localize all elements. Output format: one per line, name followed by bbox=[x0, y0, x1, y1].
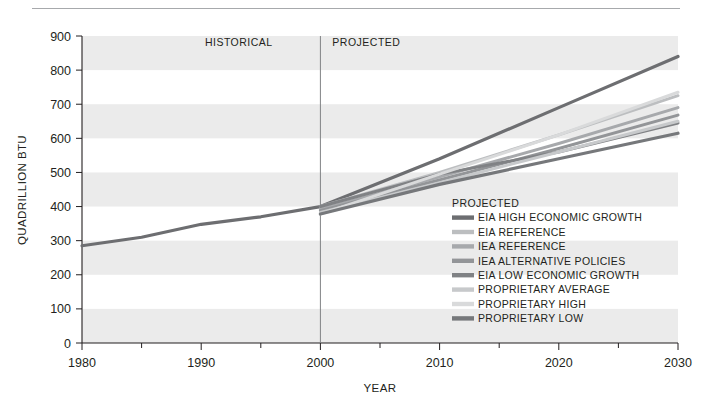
y-tick-label: 600 bbox=[50, 132, 71, 146]
chart-legend: PROJECTEDEIA HIGH ECONOMIC GROWTHEIA REF… bbox=[452, 197, 642, 324]
y-tick-label: 700 bbox=[50, 98, 71, 112]
band bbox=[82, 309, 678, 343]
x-tick-label: 2010 bbox=[426, 356, 454, 370]
chart-figure: 0100200300400500600700800900 19801990200… bbox=[0, 0, 702, 414]
y-axis-title: QUADRILLION BTU bbox=[16, 135, 28, 245]
legend-item[interactable]: PROPRIETARY AVERAGE bbox=[452, 283, 610, 295]
legend-item[interactable]: IEA ALTERNATIVE POLICIES bbox=[452, 255, 625, 267]
y-tick-label: 0 bbox=[64, 337, 71, 351]
legend-item[interactable]: EIA HIGH ECONOMIC GROWTH bbox=[452, 211, 642, 223]
y-tick-label: 300 bbox=[50, 234, 71, 248]
legend-item[interactable]: EIA LOW ECONOMIC GROWTH bbox=[452, 269, 640, 281]
x-tick-label: 1990 bbox=[187, 356, 215, 370]
y-tick-label: 200 bbox=[50, 268, 71, 282]
y-axis-ticks: 0100200300400500600700800900 bbox=[50, 30, 82, 351]
series-line bbox=[82, 207, 320, 246]
legend-label: IEA REFERENCE bbox=[478, 240, 566, 252]
legend-swatch bbox=[452, 273, 474, 277]
x-axis-ticks: 198019902000201020202030 bbox=[68, 343, 692, 370]
legend-label: PROPRIETARY LOW bbox=[478, 312, 583, 324]
legend-label: PROPRIETARY HIGH bbox=[478, 298, 586, 310]
legend-label: PROPRIETARY AVERAGE bbox=[478, 283, 610, 295]
legend-item[interactable]: EIA REFERENCE bbox=[452, 226, 566, 238]
y-tick-label: 800 bbox=[50, 64, 71, 78]
era-label: HISTORICAL bbox=[205, 36, 273, 48]
x-axis-title: YEAR bbox=[364, 382, 397, 394]
legend-swatch bbox=[452, 215, 474, 219]
legend-swatch bbox=[452, 230, 474, 234]
x-tick-label: 2020 bbox=[545, 356, 573, 370]
legend-label: IEA ALTERNATIVE POLICIES bbox=[478, 255, 625, 267]
y-tick-label: 100 bbox=[50, 302, 71, 316]
x-tick-label: 2030 bbox=[664, 356, 692, 370]
legend-swatch bbox=[452, 259, 474, 263]
legend-label: EIA REFERENCE bbox=[478, 226, 566, 238]
y-tick-label: 500 bbox=[50, 166, 71, 180]
y-tick-label: 900 bbox=[50, 30, 71, 44]
x-tick-label: 1980 bbox=[68, 356, 96, 370]
legend-swatch bbox=[452, 287, 474, 291]
legend-swatch bbox=[452, 302, 474, 306]
x-tick-label: 2000 bbox=[306, 356, 334, 370]
legend-label: EIA LOW ECONOMIC GROWTH bbox=[478, 269, 640, 281]
legend-label: EIA HIGH ECONOMIC GROWTH bbox=[478, 211, 642, 223]
legend-title: PROJECTED bbox=[452, 197, 519, 209]
y-tick-label: 400 bbox=[50, 200, 71, 214]
legend-swatch bbox=[452, 244, 474, 248]
legend-item[interactable]: PROPRIETARY HIGH bbox=[452, 298, 586, 310]
era-label: PROJECTED bbox=[332, 36, 400, 48]
legend-swatch bbox=[452, 316, 474, 320]
line-chart: 0100200300400500600700800900 19801990200… bbox=[0, 0, 702, 414]
